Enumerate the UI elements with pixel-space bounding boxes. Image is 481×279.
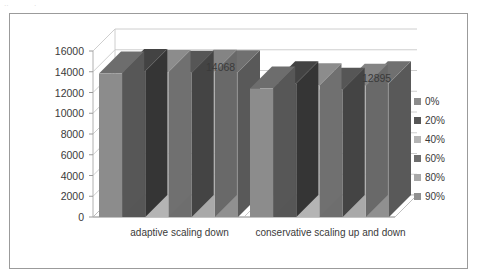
data-label: 14068	[206, 62, 235, 73]
bar	[250, 67, 295, 217]
chart-frame: 0200040006000800010000120001400016000ada…	[9, 13, 468, 269]
x-axis-category-label: adaptive scaling down	[102, 228, 258, 238]
data-label: 12895	[362, 73, 391, 84]
legend-label: 90%	[425, 191, 445, 202]
legend-swatch-icon	[414, 117, 421, 124]
legend-item-20[interactable]: 20%	[414, 115, 445, 126]
bar	[99, 52, 144, 217]
legend-item-40[interactable]: 40%	[414, 134, 445, 145]
scan-artifacts: ···	[0, 0, 481, 13]
legend-swatch-icon	[414, 98, 421, 105]
legend-label: 80%	[425, 172, 445, 183]
legend-swatch-icon	[414, 136, 421, 143]
y-axis-tick-label: 10000	[18, 108, 84, 119]
legend-swatch-icon	[414, 193, 421, 200]
y-axis-tick-label: 0	[18, 212, 84, 223]
legend-swatch-icon	[414, 174, 421, 181]
legend-item-60[interactable]: 60%	[414, 153, 445, 164]
legend-label: 40%	[425, 134, 445, 145]
y-axis-tick-label: 16000	[18, 46, 84, 57]
x-axis-category-label: conservative scaling up and down	[253, 228, 409, 238]
y-axis-tick-label: 2000	[18, 191, 84, 202]
y-axis-tick-label: 6000	[18, 150, 84, 161]
y-axis-tick-label: 14000	[18, 67, 84, 78]
legend-item-0[interactable]: 0%	[414, 96, 439, 107]
legend-label: 20%	[425, 115, 445, 126]
legend-swatch-icon	[414, 155, 421, 162]
scan-artifact: ··	[4, 2, 9, 10]
y-axis-tick-label: 8000	[18, 129, 84, 140]
legend-item-90[interactable]: 90%	[414, 191, 445, 202]
legend-label: 60%	[425, 153, 445, 164]
legend-item-80[interactable]: 80%	[414, 172, 445, 183]
scan-artifact: ·	[34, 2, 36, 10]
y-axis-tick-label: 12000	[18, 88, 84, 99]
legend-label: 0%	[425, 96, 439, 107]
y-axis-tick-label: 4000	[18, 171, 84, 182]
